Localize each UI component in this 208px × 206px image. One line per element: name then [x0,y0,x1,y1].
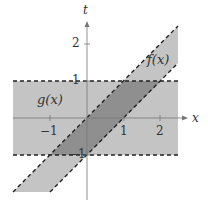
diagram: x t −1 1 2 2 1 −1 g(x) f(x) [0,0,208,206]
t-tick-1: 1 [72,73,80,87]
t-tick-2: 2 [72,36,80,50]
x-tick-1: 1 [120,124,128,138]
f-region-label: f(x) [147,52,169,67]
g-region-label: g(x) [37,92,63,107]
x-axis-label: x [192,111,199,125]
t-tick-neg1: −1 [68,147,86,161]
x-tick-neg1: −1 [40,124,58,138]
t-axis-label: t [83,3,88,17]
x-tick-2: 2 [156,124,164,138]
